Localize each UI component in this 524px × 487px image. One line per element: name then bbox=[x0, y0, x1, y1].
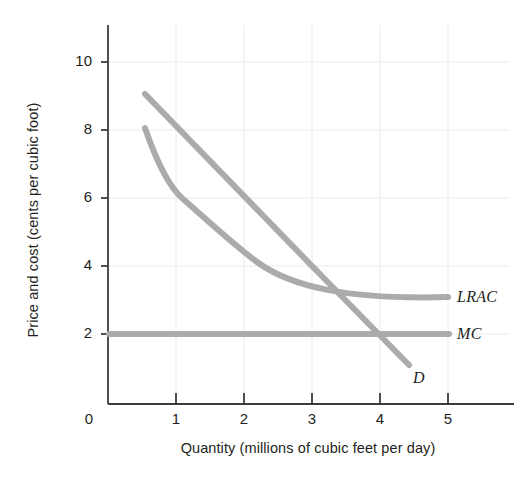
x-tick-label-2: 2 bbox=[229, 410, 259, 427]
y-tick-label-2: 2 bbox=[66, 324, 92, 341]
y-tick-label-8: 8 bbox=[66, 120, 92, 137]
x-tick-label-3: 3 bbox=[297, 410, 327, 427]
grid-vertical bbox=[176, 25, 448, 404]
x-tick-label-1: 1 bbox=[161, 410, 191, 427]
series-label-mc: MC bbox=[457, 325, 482, 343]
series-label-d: D bbox=[413, 369, 425, 387]
series-label-lrac: LRAC bbox=[457, 288, 497, 306]
x-axis-title: Quantity (millions of cubic feet per day… bbox=[108, 440, 508, 456]
axes bbox=[108, 25, 514, 404]
x-tick-label-4: 4 bbox=[365, 410, 395, 427]
y-tick-label-6: 6 bbox=[66, 188, 92, 205]
x-axis-ticks bbox=[176, 393, 448, 404]
y-tick-label-10: 10 bbox=[66, 52, 92, 69]
y-tick-label-4: 4 bbox=[66, 256, 92, 273]
series-line-d bbox=[145, 94, 409, 365]
series-line-lrac bbox=[145, 128, 448, 297]
y-axis-ticks bbox=[101, 62, 108, 334]
economics-chart: 10 8 6 4 2 0 1 2 3 4 5 Quantity (million… bbox=[0, 0, 524, 487]
x-tick-label-5: 5 bbox=[433, 410, 463, 427]
y-axis-title: Price and cost (cents per cubic foot) bbox=[25, 20, 41, 420]
x-tick-label-0: 0 bbox=[74, 410, 104, 427]
